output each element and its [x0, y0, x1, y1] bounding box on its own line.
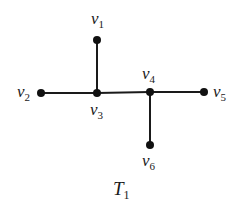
edge-v3-v4: [97, 92, 150, 93]
node-v4: [146, 88, 154, 96]
label-v3: v3: [90, 100, 104, 121]
node-v1: [93, 36, 101, 44]
label-v4: v4: [142, 64, 156, 85]
edges: [41, 40, 204, 145]
label-v2: v2: [17, 82, 30, 103]
node-v3: [93, 89, 101, 97]
node-v5: [200, 88, 208, 96]
node-labels: v1v2v3v4v5v6: [17, 9, 227, 172]
tree-diagram: v1v2v3v4v5v6 T1: [0, 0, 235, 206]
label-v1: v1: [91, 9, 104, 30]
label-v5: v5: [213, 82, 227, 103]
label-v6: v6: [142, 151, 156, 172]
node-v2: [37, 89, 45, 97]
caption-subscript: 1: [124, 188, 130, 202]
node-v6: [146, 141, 154, 149]
tree-caption: T1: [113, 178, 130, 202]
